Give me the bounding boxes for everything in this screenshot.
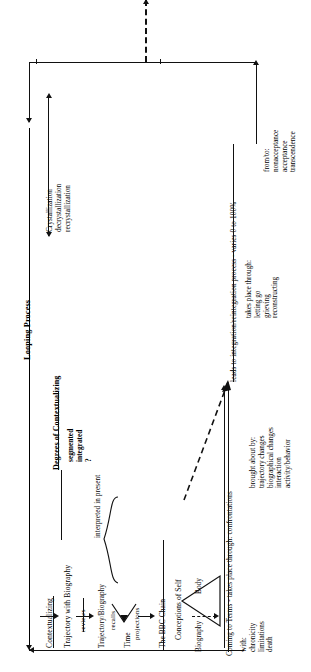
biography-label: Biography (196, 621, 204, 652)
degrees-underline (58, 392, 59, 470)
crystallization-axis-arrow-bottom (46, 232, 52, 237)
takes-place-item-reconstructing: reconstructing (271, 260, 280, 318)
trajectory-with-biography-label: Trajectory with Biography (64, 565, 72, 648)
body-label: Body (196, 578, 204, 594)
context-baseline (29, 650, 244, 651)
loop-left-arm (29, 62, 30, 122)
trajectory-to-degrees-connector (61, 470, 62, 540)
crystallization-block: Crystallization decrystallization recrys… (46, 184, 73, 232)
with-header: with: (240, 621, 249, 652)
interpreted-brace (100, 495, 120, 585)
degrees-values-block: segmented integrated ? (66, 429, 93, 462)
from-to-item-transcendence: transcendence (289, 130, 298, 172)
loop-rail-tick-mid (160, 59, 161, 64)
reviews-arrowhead (89, 613, 94, 619)
takes-place-through-header: takes place through: (245, 260, 254, 318)
brought-about-item-activity: activity/behavior (284, 427, 293, 488)
projections-to-bbc-arrow (150, 613, 155, 619)
with-block: with: chronicity limitations death (240, 621, 275, 652)
loop-rail-tick-left (36, 59, 37, 64)
looping-process-spine (29, 128, 30, 650)
from-to-item-nonacceptance: nonacceptance (272, 130, 281, 172)
takes-place-item-grieving: grieving (263, 260, 272, 318)
brought-about-item-trajectory: trajectory changes (258, 427, 267, 488)
with-item-death: death (266, 621, 275, 652)
loop-right-arm (256, 62, 257, 144)
brought-about-block: brought about by: trajectory changes bio… (249, 427, 293, 488)
reviews-underline (83, 598, 84, 632)
brought-about-item-biographical: biographical changes (267, 427, 276, 488)
integrated-label: integrated (75, 429, 84, 462)
interpreted-in-present-label: interpreted in present (95, 475, 103, 538)
diagram-canvas: Looping Process Crystallization decrysta… (0, 0, 311, 672)
time-label: Time (124, 632, 132, 648)
takes-place-through-block: takes place through: letting go grieving… (245, 260, 280, 318)
from-to-header: from/to: (263, 130, 272, 172)
terms-to-integration-arrow (221, 385, 227, 390)
question-mark-label: ? (84, 429, 93, 462)
self-to-terms-dashed (192, 616, 216, 617)
loop-left-arrowhead (26, 118, 32, 123)
takes-place-item-letting-go: letting go (254, 260, 263, 318)
trajectory-biography-label: Trajectory/Biography (99, 584, 107, 648)
context-to-trajectory-line (40, 616, 55, 617)
loop-top-rail (29, 62, 257, 63)
from-to-block: from/to: nonacceptance acceptance transc… (263, 130, 298, 172)
with-item-chronicity: chronicity (249, 621, 258, 652)
right-arm-arrowhead (253, 60, 259, 65)
with-item-limitations: limitations (258, 621, 267, 652)
from-to-item-acceptance: acceptance (281, 130, 290, 172)
contextualizing-underline (53, 596, 54, 648)
crystallization-axis-arrow-top (46, 93, 52, 98)
self-to-terms-arrowhead (214, 613, 219, 619)
segmented-label: segmented (66, 429, 75, 462)
recrystallization-label: recrystallization (64, 184, 73, 232)
leads-to-integration-rule (233, 144, 234, 382)
context-to-trajectory-arrow (54, 613, 59, 619)
brought-about-item-interaction: interaction (275, 427, 284, 488)
feedback-dashed-connector (145, 0, 147, 62)
terms-to-integration-line (224, 390, 225, 648)
feedback-arrowhead (143, 0, 149, 4)
context-baseline-arrow (29, 647, 34, 653)
bbc-chain-divider (163, 540, 164, 650)
brought-about-header: brought about by: (249, 427, 258, 488)
reviews-arrow-line (76, 616, 90, 617)
looping-process-label: Looping Process (24, 300, 33, 360)
